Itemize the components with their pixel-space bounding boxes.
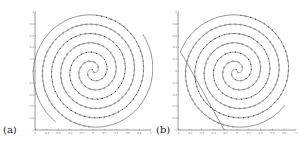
panel-label-a: (a) [3,124,17,135]
x-tick-label: 0.8 [137,132,141,135]
y-tick-label: 1 [32,11,34,14]
y-tick-label: -0.2 [29,82,34,85]
y-tick-label: 0.8 [30,23,34,26]
x-tick-label: 0.6 [126,132,130,135]
y-tick-label: 0.6 [30,35,34,38]
panel-label-b: (b) [156,124,170,135]
decision-boundary-curve [33,15,143,122]
x-tick-label: 1 [295,132,297,135]
x-tick-label: 0.4 [114,132,118,135]
spiral-plot-a: -1-0.8-0.6-0.4-0.200.20.40.60.8110.80.60… [0,0,153,147]
y-tick-label: 0.2 [30,58,34,61]
spiral-plot-b: -1-0.8-0.6-0.4-0.200.20.40.60.8110.80.60… [153,0,306,147]
y-tick-label: -0.4 [172,94,177,97]
x-tick-label: -0.2 [79,132,84,135]
x-tick-label: -0.8 [44,132,49,135]
y-tick-label: 1 [175,11,177,14]
y-tick-label: 0.4 [173,46,177,49]
class-2-points [42,23,136,127]
figure-panel-b: -1-0.8-0.6-0.4-0.200.20.40.60.8110.80.60… [153,0,306,147]
y-tick-label: -0.6 [172,105,177,108]
x-tick-label: 0.2 [103,132,107,135]
x-tick-label: 0 [92,132,94,135]
decision-boundary-curve-arm2 [186,24,285,127]
y-tick-label: -1 [31,129,34,132]
x-tick-label: -1 [177,132,180,135]
y-tick-label: 0.4 [30,46,34,49]
y-tick-label: -0.8 [29,117,34,120]
x-tick-label: 0.8 [282,132,286,135]
y-tick-label: -1 [174,129,177,132]
x-tick-label: -0.4 [211,132,216,135]
x-tick-label: 0.6 [270,132,274,135]
x-tick-label: -1 [34,132,37,135]
y-tick-label: 0 [175,70,177,73]
decision-boundary-curve [180,15,288,130]
x-tick-label: 0.4 [259,132,263,135]
y-tick-label: -0.6 [29,105,34,108]
x-tick-label: -0.6 [56,132,61,135]
x-tick-label: -0.8 [187,132,192,135]
figure-panel-a: -1-0.8-0.6-0.4-0.200.20.40.60.8110.80.60… [0,0,153,147]
y-tick-label: -0.4 [29,94,34,97]
x-tick-label: 1 [150,132,152,135]
x-tick-label: -0.6 [199,132,204,135]
x-tick-label: -0.2 [223,132,228,135]
y-tick-label: -0.8 [172,117,177,120]
class-2-points [185,23,280,127]
x-tick-label: 0.2 [247,132,251,135]
x-tick-label: -0.4 [67,132,72,135]
decision-boundary-curve-arm2 [42,24,152,127]
y-tick-label: 0.8 [173,23,177,26]
y-tick-label: 0.2 [173,58,177,61]
y-tick-label: 0.6 [173,35,177,38]
x-tick-label: 0 [236,132,238,135]
y-tick-label: -0.2 [172,82,177,85]
